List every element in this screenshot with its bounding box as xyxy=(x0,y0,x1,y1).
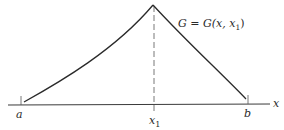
x-axis xyxy=(8,104,270,105)
tick-label-b: b xyxy=(244,107,251,120)
green-function-diagram: x a b x1 G = G(x, x1) xyxy=(0,0,284,130)
curve-label: G = G(x, x1) xyxy=(178,17,245,32)
green-function-curve-left xyxy=(24,5,153,102)
x-axis-label: x xyxy=(273,97,280,110)
tick-label-x1: x1 xyxy=(149,114,160,129)
tick-label-a: a xyxy=(16,108,23,121)
